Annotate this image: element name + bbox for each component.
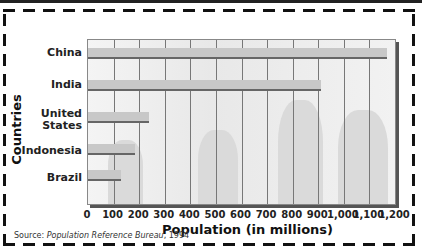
x-tick-label: 800 [281, 209, 302, 220]
category-label-us-2: States [42, 120, 82, 132]
gridline [216, 40, 217, 204]
x-tick-label: 500 [204, 209, 225, 220]
category-label-china: China [47, 47, 82, 59]
bar-china [88, 48, 387, 59]
x-tick-label: 700 [256, 209, 277, 220]
gridline [242, 40, 243, 204]
x-tick-label: 200 [128, 209, 149, 220]
gridline [344, 40, 345, 204]
silhouette [278, 100, 323, 204]
category-label-indonesia: Indonesia [22, 145, 82, 157]
x-tick-label: 1,200 [378, 209, 410, 220]
gridline [293, 40, 294, 204]
category-label-india: India [51, 79, 82, 91]
x-tick-label: 400 [179, 209, 200, 220]
gridline [190, 40, 191, 204]
bar-india [88, 80, 321, 91]
gridline [369, 40, 370, 204]
silhouette [338, 110, 388, 204]
y-axis-label: Countries [9, 80, 24, 180]
x-tick-label: 300 [153, 209, 174, 220]
category-label-brazil: Brazil [47, 172, 82, 184]
top-rule [0, 0, 422, 3]
x-tick-label: 0 [84, 209, 91, 220]
bar-indonesia [88, 144, 135, 155]
x-tick-label: 900 [307, 209, 328, 220]
silhouette [198, 130, 238, 204]
plot-area [87, 39, 396, 205]
x-tick-label: 600 [230, 209, 251, 220]
x-tick-label: 100 [102, 209, 123, 220]
gridline [318, 40, 319, 204]
bar-united-states [88, 112, 149, 123]
gridline [267, 40, 268, 204]
bar-brazil [88, 170, 121, 181]
gridline [165, 40, 166, 204]
source-note: Source: Population Reference Bureau, 199… [14, 231, 189, 240]
